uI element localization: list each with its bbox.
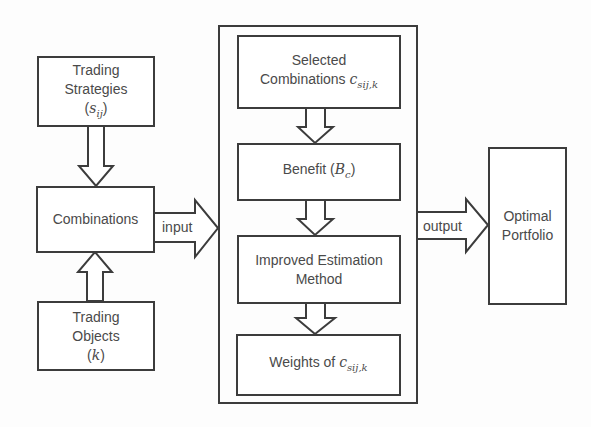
selected-line1: Selected <box>292 51 346 70</box>
trading-strategies-line2: Strategies <box>64 80 127 99</box>
trading-objects-line2: Objects <box>72 327 119 346</box>
weights-text: Weights of csij,k <box>269 353 367 377</box>
symbol-sub: sij,k <box>347 362 368 373</box>
symbol-sub: sij,k <box>357 79 378 90</box>
optimal-portfolio-box: Optimal Portfolio <box>488 147 567 305</box>
selected-line2: Combinations csij,k <box>260 70 378 94</box>
optimal-line2: Portfolio <box>502 226 553 245</box>
paren-close: ) <box>103 100 108 116</box>
trading-objects-symbol: (k) <box>87 346 105 365</box>
benefit-label: Benefit <box>283 161 327 177</box>
benefit-text: Benefit (Bc) <box>283 160 356 184</box>
selected-combinations-text: Combinations <box>260 71 346 87</box>
symbol-k: k <box>92 347 100 363</box>
arrow-up-objects <box>78 252 112 301</box>
paren-close: ) <box>351 161 356 177</box>
estimation-line1: Improved Estimation <box>255 251 383 270</box>
symbol-B: B <box>335 161 345 177</box>
input-label: input <box>162 219 192 235</box>
combinations-label: Combinations <box>53 210 139 229</box>
trading-strategies-symbol: (sij) <box>85 99 108 123</box>
benefit-box: Benefit (Bc) <box>237 143 401 201</box>
trading-strategies-line1: Trading <box>73 61 120 80</box>
output-label: output <box>423 218 462 234</box>
symbol-c: c <box>339 354 347 370</box>
trading-objects-box: Trading Objects (k) <box>37 301 155 371</box>
trading-objects-line1: Trading <box>73 308 120 327</box>
weights-box: Weights of csij,k <box>236 334 401 396</box>
weights-label: Weights of <box>269 354 335 370</box>
improved-estimation-box: Improved Estimation Method <box>237 235 401 304</box>
combinations-box: Combinations <box>36 186 155 253</box>
paren-close: ) <box>100 347 105 363</box>
optimal-line1: Optimal <box>503 207 551 226</box>
arrow-down-strategies <box>79 126 113 186</box>
selected-combinations-box: Selected Combinations csij,k <box>237 35 401 109</box>
estimation-line2: Method <box>296 270 343 289</box>
trading-strategies-box: Trading Strategies (sij) <box>37 56 155 127</box>
